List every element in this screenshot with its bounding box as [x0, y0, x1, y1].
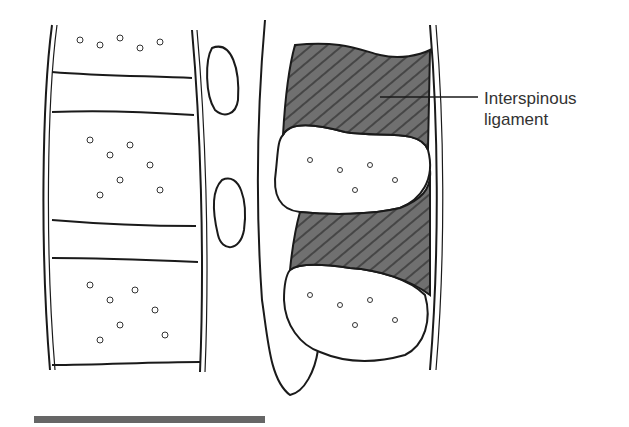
anterior-edge	[43, 25, 52, 370]
scale-bar	[34, 416, 265, 423]
interspinous-ligament-label: Interspinous ligament	[484, 88, 577, 130]
spine-illustration	[0, 0, 629, 427]
foramen-upper	[207, 47, 238, 115]
label-line-1: Interspinous	[484, 88, 577, 109]
foramen-lower	[214, 179, 245, 248]
label-line-2: ligament	[484, 109, 577, 130]
spinous-process-upper	[275, 125, 430, 214]
